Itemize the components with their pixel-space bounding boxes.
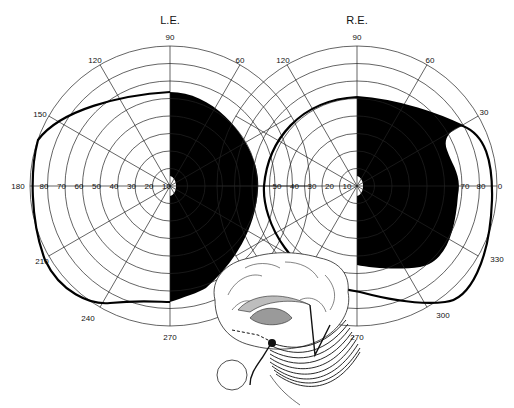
angle-label-60: 60 [426,56,435,65]
angle-label-30: 30 [480,108,489,117]
angle-label-0: 0 [498,182,503,191]
ring-label-80: 80 [477,182,486,191]
ring-label-10: 10 [162,182,171,191]
left-eye-label: L.E. [160,14,180,26]
ring-label-30: 30 [127,182,136,191]
ring-label-30: 30 [308,182,317,191]
visual-field-figure: 90601201501802102402708070605040302010 9… [0,0,514,408]
ring-label-50: 50 [92,182,101,191]
angle-label-330: 330 [490,255,504,264]
brain-inset [214,253,360,405]
ring-label-50: 50 [273,182,282,191]
ring-label-70: 70 [461,182,470,191]
angle-label-270: 270 [350,333,364,342]
ring-label-80: 80 [40,182,49,191]
angle-label-150: 150 [33,110,47,119]
ring-label-20: 20 [145,182,154,191]
angle-label-120: 120 [276,56,290,65]
angle-label-90: 90 [166,33,175,42]
ring-label-70: 70 [57,182,66,191]
angle-label-120: 120 [88,56,102,65]
angle-label-270: 270 [163,333,177,342]
angle-label-90: 90 [353,33,362,42]
angle-label-300: 300 [436,311,450,320]
ring-label-40: 40 [110,182,119,191]
angle-label-60: 60 [236,56,245,65]
angle-label-180: 180 [11,182,25,191]
right-eye-label: R.E. [346,14,367,26]
ring-label-20: 20 [325,182,334,191]
ring-label-60: 60 [75,182,84,191]
angle-label-210: 210 [35,257,49,266]
ring-label-40: 40 [290,182,299,191]
angle-label-240: 240 [81,314,95,323]
ring-label-10: 10 [343,182,352,191]
perimetry-diagram: 90601201501802102402708070605040302010 9… [0,0,514,408]
